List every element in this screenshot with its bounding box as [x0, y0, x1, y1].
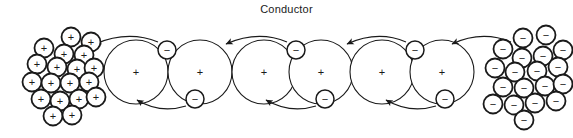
atom-circle-symbol: +: [318, 66, 324, 78]
positive-charge-symbol: +: [67, 77, 73, 89]
negative-charge: −: [526, 94, 545, 113]
negative-charge-symbol: −: [490, 98, 496, 110]
atom-circle: +: [350, 40, 414, 104]
atom-circle-symbol: +: [133, 66, 139, 78]
positive-charge-symbol: +: [48, 77, 54, 89]
negative-charge-symbol: −: [500, 43, 506, 55]
negative-charge: −: [547, 92, 566, 111]
negative-charge-symbol: −: [521, 114, 527, 126]
positive-charge: +: [32, 90, 51, 109]
negative-charge-symbol: −: [500, 81, 506, 93]
electron-circle: −: [406, 41, 424, 59]
positive-charge-cluster: +++++++++++++++++++: [23, 28, 106, 126]
negative-charge-symbol: −: [540, 50, 546, 62]
positive-charge-symbol: +: [69, 109, 75, 121]
negative-charge-symbol: −: [492, 62, 498, 74]
negative-charge-symbol: −: [534, 65, 540, 77]
negative-charge-symbol: −: [512, 66, 518, 78]
electron-circle-symbol: −: [164, 44, 170, 56]
electron-circle: −: [158, 41, 176, 59]
atom-circle-symbol: +: [439, 66, 445, 78]
conduction-diagram: ++++++ −−−−−− +++++++++++++++++++ −−−−−−…: [0, 0, 573, 138]
electron-circle: −: [287, 41, 305, 59]
positive-charge-symbol: +: [29, 76, 35, 88]
electron-circle: −: [186, 90, 204, 108]
electron-circle-symbol: −: [293, 44, 299, 56]
positive-charge: +: [23, 73, 42, 92]
negative-charge-symbol: −: [555, 61, 561, 73]
electron-circle-symbol: −: [322, 93, 328, 105]
negative-charge: −: [494, 40, 513, 59]
atom-circle-symbol: +: [197, 66, 203, 78]
negative-charge-symbol: −: [553, 95, 559, 107]
positive-charge: +: [63, 106, 82, 125]
positive-charge-symbol: +: [93, 91, 99, 103]
positive-charge-symbol: +: [41, 42, 47, 54]
positive-charge-symbol: +: [38, 93, 44, 105]
positive-charge-symbol: +: [34, 58, 40, 70]
positive-charge-symbol: +: [86, 76, 92, 88]
negative-charge-cluster: −−−−−−−−−−−−−−−−−−−: [484, 26, 573, 130]
positive-charge: +: [44, 107, 63, 126]
atom-circle-symbol: +: [379, 66, 385, 78]
positive-charge-symbol: +: [54, 61, 60, 73]
positive-charge-symbol: +: [57, 95, 63, 107]
positive-charge-symbol: +: [81, 49, 87, 61]
negative-charge-symbol: −: [520, 32, 526, 44]
electron-circle: −: [436, 90, 454, 108]
negative-charge: −: [549, 58, 568, 77]
negative-charge: −: [494, 78, 513, 97]
atom-circle-symbol: +: [261, 66, 267, 78]
negative-charge: −: [486, 59, 505, 78]
electron-circle-symbol: −: [192, 93, 198, 105]
negative-charge: −: [554, 41, 573, 60]
negative-charge-symbol: −: [532, 97, 538, 109]
positive-charge-symbol: +: [76, 93, 82, 105]
electron-circle-symbol: −: [442, 93, 448, 105]
negative-charge-symbol: −: [511, 99, 517, 111]
negative-charge: −: [484, 95, 503, 114]
electron-circle-symbol: −: [412, 44, 418, 56]
negative-charge-symbol: −: [521, 82, 527, 94]
negative-charge: −: [514, 29, 533, 48]
positive-charge-symbol: +: [74, 63, 80, 75]
electron-circle: −: [316, 90, 334, 108]
positive-charge: +: [87, 88, 106, 107]
negative-charge-symbol: −: [519, 52, 525, 64]
negative-charge-symbol: −: [542, 80, 548, 92]
negative-charge-symbol: −: [543, 29, 549, 41]
diagram-page: Conductor ++++++ −−−−−− ++++++++++++++++…: [0, 0, 573, 138]
negative-charge: −: [515, 111, 534, 130]
positive-charge: +: [28, 55, 47, 74]
negative-charge-symbol: −: [560, 78, 566, 90]
negative-charge-symbol: −: [560, 44, 566, 56]
negative-charge: −: [537, 26, 556, 45]
positive-charge-symbol: +: [68, 31, 74, 43]
positive-charge-symbol: +: [50, 110, 56, 122]
